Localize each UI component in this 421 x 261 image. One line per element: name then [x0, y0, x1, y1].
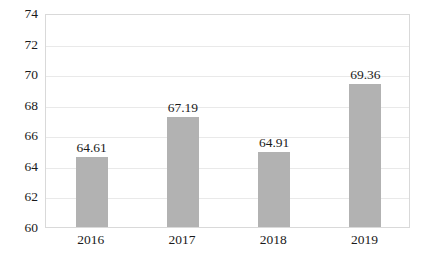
y-axis: 7472706866646260	[8, 0, 38, 261]
bar-value-label: 67.19	[168, 101, 198, 115]
bar-2018[interactable]	[258, 152, 290, 227]
bar-group: 69.36	[320, 15, 411, 227]
y-axis-tick-label: 70	[8, 68, 38, 82]
bar-chart: 7472706866646260 64.6167.1964.9169.36 20…	[0, 0, 421, 261]
bar-value-label: 69.36	[350, 68, 380, 82]
bar-2019[interactable]	[349, 84, 381, 227]
y-axis-tick-label: 74	[8, 7, 38, 21]
bar-group: 64.61	[46, 15, 137, 227]
y-axis-tick-label: 62	[8, 191, 38, 205]
bar-group: 67.19	[137, 15, 228, 227]
x-axis-tick-label: 2017	[168, 233, 195, 247]
plot-area: 64.6167.1964.9169.36	[45, 14, 410, 228]
y-axis-tick-label: 60	[8, 221, 38, 235]
bar-value-label: 64.61	[76, 141, 106, 155]
bars-layer: 64.6167.1964.9169.36	[46, 15, 409, 227]
x-axis-tick-label: 2016	[77, 233, 104, 247]
bar-group: 64.91	[229, 15, 320, 227]
y-axis-tick-label: 72	[8, 38, 38, 52]
x-axis: 2016201720182019	[45, 233, 410, 255]
y-axis-tick-label: 68	[8, 99, 38, 113]
y-axis-tick-label: 66	[8, 130, 38, 144]
y-axis-tick-label: 64	[8, 160, 38, 174]
x-axis-tick-label: 2019	[351, 233, 378, 247]
bar-2017[interactable]	[167, 117, 199, 227]
bar-2016[interactable]	[76, 157, 108, 227]
x-axis-tick-label: 2018	[260, 233, 287, 247]
bar-value-label: 64.91	[259, 136, 289, 150]
